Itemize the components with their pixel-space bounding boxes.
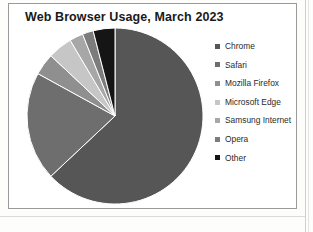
legend-item-label: Samsung Internet: [225, 116, 291, 124]
chart-title: Web Browser Usage, March 2023: [25, 10, 224, 24]
legend-item-label: Other: [225, 154, 246, 162]
page-edge-line-outer: [308, 0, 309, 232]
chart-container[interactable]: Web Browser Usage, March 2023 ChromeSafa…: [8, 3, 297, 209]
page-edge-line-bottom: [0, 216, 305, 217]
legend-item-label: Mozilla Firefox: [225, 79, 279, 87]
legend-item-opera[interactable]: Opera: [215, 130, 301, 149]
legend-swatch-icon: [215, 100, 220, 105]
page-edge-line: [305, 0, 306, 232]
legend-item-samsung-internet[interactable]: Samsung Internet: [215, 111, 301, 130]
legend-item-microsoft-edge[interactable]: Microsoft Edge: [215, 93, 301, 112]
legend-item-mozilla-firefox[interactable]: Mozilla Firefox: [215, 74, 301, 93]
legend-swatch-icon: [215, 155, 220, 160]
legend-item-label: Opera: [225, 135, 248, 143]
legend-item-chrome[interactable]: Chrome: [215, 37, 301, 56]
pie-slice-group: [27, 28, 203, 204]
legend-swatch-icon: [215, 81, 220, 86]
chart-legend: ChromeSafariMozilla FirefoxMicrosoft Edg…: [215, 37, 301, 167]
legend-item-other[interactable]: Other: [215, 149, 301, 168]
legend-item-label: Safari: [225, 61, 247, 69]
legend-item-label: Microsoft Edge: [225, 98, 281, 106]
legend-swatch-icon: [215, 62, 220, 67]
legend-swatch-icon: [215, 118, 220, 123]
legend-item-safari[interactable]: Safari: [215, 56, 301, 75]
legend-item-label: Chrome: [225, 42, 255, 50]
legend-swatch-icon: [215, 44, 220, 49]
legend-swatch-icon: [215, 137, 220, 142]
pie-plot-area[interactable]: [11, 24, 209, 207]
pie-chart-svg: [11, 24, 209, 207]
